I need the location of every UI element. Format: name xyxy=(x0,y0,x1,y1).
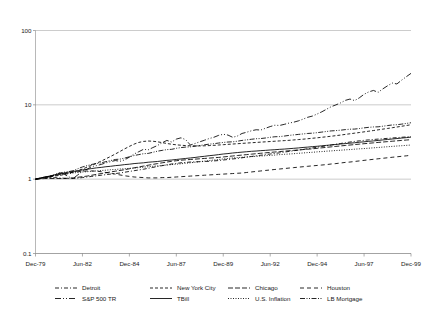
series-line-s-p-500-tr xyxy=(36,73,412,179)
x-tick-label: Jun-97 xyxy=(355,260,374,267)
series-line-tbill xyxy=(36,137,412,179)
x-tick-label: Dec-99 xyxy=(401,260,422,267)
legend-item-chicago: Chicago xyxy=(228,284,278,291)
legend-item-new-york-city: New York City xyxy=(150,284,216,291)
x-tick-label: Dec-84 xyxy=(119,260,140,267)
legend-label-s-p-500-tr: S&P 500 TR xyxy=(82,295,117,302)
y-axis-tick-labels: 1001010.1 xyxy=(21,27,32,257)
y-tick-label: 0.1 xyxy=(23,250,32,257)
legend-item-tbill: TBill xyxy=(150,295,189,302)
log-line-chart: 1001010.1 Dec-79Jun-82Dec-84Jun-87Dec-89… xyxy=(0,0,425,311)
x-axis-tick-labels: Dec-79Jun-82Dec-84Jun-87Dec-89Jun-92Dec-… xyxy=(26,260,422,267)
chart-legend: DetroitNew York CityChicagoHoustonS&P 50… xyxy=(55,284,363,302)
legend-label-lb-mortgage: LB Mortgage xyxy=(327,295,363,302)
legend-label-u-s-inflation: U.S. Inflation xyxy=(255,295,291,302)
legend-label-new-york-city: New York City xyxy=(177,284,216,291)
y-tick-label: 1 xyxy=(28,175,32,182)
legend-label-chicago: Chicago xyxy=(255,284,278,291)
x-axis-ticks xyxy=(36,254,412,257)
series-line-chicago xyxy=(36,140,412,180)
x-tick-label: Jun-92 xyxy=(261,260,280,267)
legend-item-detroit: Detroit xyxy=(55,284,101,291)
x-tick-label: Dec-79 xyxy=(26,260,47,267)
y-tick-label: 100 xyxy=(21,27,32,34)
y-axis-ticks xyxy=(33,31,36,254)
legend-item-u-s-inflation: U.S. Inflation xyxy=(228,295,291,302)
legend-label-detroit: Detroit xyxy=(82,284,101,291)
x-tick-label: Dec-89 xyxy=(213,260,234,267)
legend-label-houston: Houston xyxy=(327,284,351,291)
legend-item-lb-mortgage: LB Mortgage xyxy=(300,295,363,302)
x-tick-label: Jun-87 xyxy=(167,260,186,267)
x-tick-label: Jun-82 xyxy=(73,260,92,267)
x-tick-label: Dec-94 xyxy=(307,260,328,267)
legend-item-houston: Houston xyxy=(300,284,351,291)
y-tick-label: 10 xyxy=(25,101,32,108)
chart-container: 1001010.1 Dec-79Jun-82Dec-84Jun-87Dec-89… xyxy=(0,0,425,311)
legend-item-s-p-500-tr: S&P 500 TR xyxy=(55,295,117,302)
legend-label-tbill: TBill xyxy=(177,295,189,302)
data-series-layer xyxy=(36,73,412,179)
gridlines xyxy=(36,31,412,254)
